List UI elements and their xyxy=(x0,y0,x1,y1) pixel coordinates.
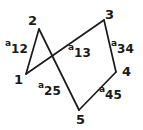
graph-diagram: 1 2 3 4 5 a12 a13 a25 a34 a45 xyxy=(0,0,143,130)
edge-label-a25-subscript: 25 xyxy=(44,84,61,98)
edge-label-a12: a12 xyxy=(5,40,28,56)
edge-label-a34-symbol: a xyxy=(111,38,117,48)
edge-label-a13-subscript: 13 xyxy=(74,46,91,60)
edge-e13 xyxy=(26,20,104,74)
edge-label-a45-symbol: a xyxy=(99,84,105,94)
edge-label-a45-subscript: 45 xyxy=(105,88,122,102)
node-label-4: 4 xyxy=(122,65,131,78)
edge-label-a34-subscript: 34 xyxy=(117,42,134,56)
edge-label-a45: a45 xyxy=(99,86,122,102)
edge-label-a25: a25 xyxy=(38,82,61,98)
node-label-3: 3 xyxy=(105,8,114,21)
edge-label-a13: a13 xyxy=(68,44,91,60)
edge-label-a34: a34 xyxy=(111,40,134,56)
edge-label-a13-symbol: a xyxy=(68,42,74,52)
node-label-1: 1 xyxy=(14,73,23,86)
edge-label-a12-subscript: 12 xyxy=(11,42,28,56)
edge-label-a12-symbol: a xyxy=(5,38,11,48)
edge-label-a25-symbol: a xyxy=(38,80,44,90)
node-label-5: 5 xyxy=(76,113,85,126)
node-label-2: 2 xyxy=(28,14,37,27)
